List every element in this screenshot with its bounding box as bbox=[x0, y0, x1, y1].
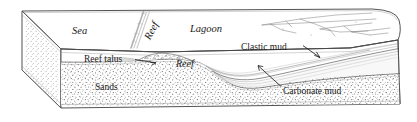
label-carbonate-mud: Carbonate mud bbox=[283, 86, 342, 96]
label-sea: Sea bbox=[72, 25, 87, 36]
label-reef-section: Reef bbox=[175, 58, 195, 69]
label-lagoon: Lagoon bbox=[189, 23, 222, 34]
label-sands: Sands bbox=[95, 82, 118, 92]
label-reef-talus: Reef talus bbox=[84, 54, 123, 64]
block-diagram-figure: Sea Reef Lagoon Reef talus Reef Sands Cl… bbox=[0, 0, 417, 122]
label-clastic-mud: Clastic mud bbox=[241, 42, 287, 52]
